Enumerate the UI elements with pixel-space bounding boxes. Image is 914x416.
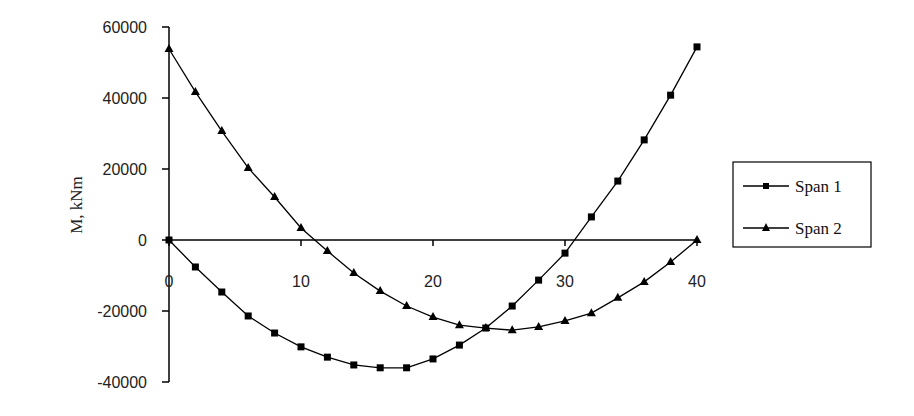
y-tick-label: -20000 (97, 303, 147, 320)
square-marker-icon (456, 342, 463, 349)
x-tick-label: 30 (556, 273, 574, 290)
triangle-marker-icon (402, 301, 411, 309)
series-layer (165, 43, 702, 371)
square-marker-icon (271, 330, 278, 337)
y-tick-label: 20000 (103, 161, 148, 178)
square-marker-icon (298, 343, 305, 350)
moment-chart: 6000040000200000-20000-40000 010203040 M… (0, 0, 914, 416)
square-marker-icon (377, 364, 384, 371)
x-tick-label: 20 (424, 273, 442, 290)
square-marker-icon (166, 237, 173, 244)
x-axis: 010203040 (165, 240, 706, 290)
x-tick-label: 10 (292, 273, 310, 290)
square-marker-icon (403, 364, 410, 371)
square-marker-icon (667, 92, 674, 99)
square-marker-icon (641, 136, 648, 143)
x-tick-label: 0 (165, 273, 174, 290)
triangle-marker-icon (349, 268, 358, 276)
y-tick-label: 0 (138, 232, 147, 249)
legend: Span 1 Span 2 (733, 162, 871, 247)
square-marker-icon (430, 355, 437, 362)
triangle-marker-icon (191, 87, 200, 95)
square-marker-icon (192, 263, 199, 270)
triangle-marker-icon (587, 308, 596, 316)
legend-label-span-2: Span 2 (795, 219, 842, 238)
x-tick-label: 40 (688, 273, 706, 290)
square-marker-icon (509, 303, 516, 310)
square-marker-icon (763, 183, 769, 189)
square-marker-icon (535, 277, 542, 284)
square-marker-icon (614, 178, 621, 185)
square-marker-icon (324, 354, 331, 361)
triangle-marker-icon (640, 277, 649, 285)
triangle-marker-icon (693, 235, 702, 243)
square-marker-icon (218, 289, 225, 296)
triangle-marker-icon (666, 257, 675, 265)
y-axis-title: M, kNm (67, 176, 86, 234)
triangle-marker-icon (376, 286, 385, 294)
triangle-marker-icon (613, 293, 622, 301)
y-tick-label: -40000 (97, 374, 147, 391)
square-marker-icon (350, 361, 357, 368)
square-marker-icon (562, 250, 569, 257)
y-tick-label: 40000 (103, 90, 148, 107)
series-span-1 (166, 43, 701, 371)
square-marker-icon (588, 213, 595, 220)
legend-label-span-1: Span 1 (795, 177, 842, 196)
square-marker-icon (245, 312, 252, 319)
y-tick-label: 60000 (103, 19, 148, 36)
square-marker-icon (694, 43, 701, 50)
triangle-marker-icon (323, 246, 332, 254)
y-axis: 6000040000200000-20000-40000 (97, 19, 169, 391)
triangle-marker-icon (165, 44, 174, 52)
